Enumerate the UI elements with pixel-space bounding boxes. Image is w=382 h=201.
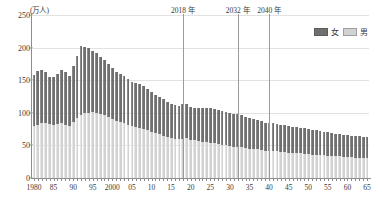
bar-column [40, 15, 43, 178]
x-tick-mark [297, 178, 298, 181]
x-tick-label: 30 [226, 183, 234, 192]
bar-segment-male [248, 149, 251, 178]
bar-segment-female [350, 136, 353, 158]
bar-column [287, 15, 290, 178]
y-axis-ticks: 050100150200250 [0, 0, 30, 201]
x-tick-mark [155, 178, 156, 181]
bar-segment-female [48, 77, 51, 124]
x-tick-mark [163, 178, 164, 181]
y-tick-label: 50 [8, 141, 30, 150]
bar-column [99, 15, 102, 178]
x-tick-mark [187, 178, 188, 181]
x-tick-mark [65, 178, 66, 181]
bar-segment-male [107, 117, 110, 178]
legend-label-female: 女 [331, 26, 339, 37]
x-tick-mark [34, 178, 35, 181]
x-tick-mark [116, 178, 117, 181]
bar-segment-female [72, 66, 75, 122]
bar-segment-female [283, 125, 286, 152]
year-marker-label: 2040 年 [257, 4, 281, 15]
x-tick-mark [261, 178, 262, 181]
bar-segment-male [319, 155, 322, 178]
bar-segment-female [170, 104, 173, 139]
bar-segment-female [362, 137, 365, 158]
x-tick-mark [73, 178, 74, 181]
x-tick-label: 45 [285, 183, 293, 192]
bar-segment-male [33, 126, 36, 178]
bar-segment-male [115, 121, 118, 178]
x-tick-mark [300, 178, 301, 181]
bar-segment-male [197, 141, 200, 178]
bar-column [52, 15, 55, 178]
bar-column [150, 15, 153, 178]
x-tick-label: 05 [128, 183, 136, 192]
bar-column [323, 15, 326, 178]
plot-area [32, 15, 369, 178]
x-tick-mark [246, 178, 247, 181]
bar-segment-female [68, 76, 71, 126]
bar-column [178, 15, 181, 178]
bar-column [83, 15, 86, 178]
bar-segment-female [158, 97, 161, 134]
bar-column [240, 15, 243, 178]
bar-segment-female [354, 136, 357, 158]
bar-column [60, 15, 63, 178]
bar-segment-female [40, 70, 43, 123]
bar-column [68, 15, 71, 178]
y-tick-label: 100 [8, 108, 30, 117]
x-tick-mark [61, 178, 62, 181]
bar-column [315, 15, 318, 178]
legend-item-male[interactable]: 男 [343, 26, 368, 37]
bar-segment-male [189, 140, 192, 178]
bar-column [228, 15, 231, 178]
bar-segment-female [138, 84, 141, 128]
bar-column [111, 15, 114, 178]
bar-segment-male [315, 155, 318, 178]
bar-segment-male [330, 156, 333, 178]
bar-column [260, 15, 263, 178]
bar-column [291, 15, 294, 178]
x-tick-label: 55 [324, 183, 332, 192]
bar-column [197, 15, 200, 178]
bar-segment-male [221, 145, 224, 178]
bar-column [213, 15, 216, 178]
bar-segment-male [48, 124, 51, 178]
bar-column [264, 15, 267, 178]
bar-segment-female [330, 133, 333, 156]
x-tick-mark [324, 178, 325, 181]
bar-segment-female [162, 99, 165, 136]
x-tick-mark [285, 178, 286, 181]
x-tick-mark [273, 178, 274, 181]
bar-segment-female [323, 132, 326, 155]
bar-segment-male [99, 114, 102, 178]
x-tick-mark [195, 178, 196, 181]
bar-segment-female [240, 115, 243, 147]
bar-segment-female [166, 102, 169, 137]
bar-segment-male [272, 151, 275, 178]
bar-column [162, 15, 165, 178]
x-tick-mark [202, 178, 203, 181]
x-tick-mark [253, 178, 254, 181]
bar-column [107, 15, 110, 178]
x-tick-mark [238, 178, 239, 181]
bar-column [123, 15, 126, 178]
bar-segment-female [178, 106, 181, 139]
legend-item-female[interactable]: 女 [314, 26, 339, 37]
bar-segment-female [111, 68, 114, 120]
bar-segment-male [185, 138, 188, 178]
bar-segment-female [244, 117, 247, 148]
bar-segment-female [213, 109, 216, 144]
x-tick-mark [120, 178, 121, 181]
bar-segment-female [303, 128, 306, 153]
bar-segment-female [342, 135, 345, 157]
bar-column [131, 15, 134, 178]
bar-segment-male [291, 153, 294, 178]
bar-column [174, 15, 177, 178]
bar-segment-male [111, 119, 114, 178]
bar-segment-male [91, 112, 94, 178]
bar-segment-female [338, 134, 341, 156]
bar-segment-male [68, 126, 71, 178]
bar-segment-female [279, 125, 282, 152]
x-tick-mark [152, 178, 153, 181]
x-tick-label: 50 [305, 183, 313, 192]
